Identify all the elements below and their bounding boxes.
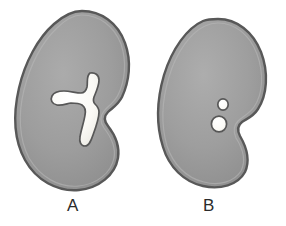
figure-container: A B [0, 0, 286, 226]
panel-label-a: A [58, 196, 88, 216]
kidney-comparison-figure [0, 0, 286, 226]
kidney-shape-b [158, 19, 266, 187]
kidney-shape-a [15, 11, 129, 190]
panel-label-b: B [194, 196, 224, 216]
kidney-b-cavity-lower-large [211, 116, 226, 132]
kidney-b-cavity-upper-small [218, 99, 228, 110]
